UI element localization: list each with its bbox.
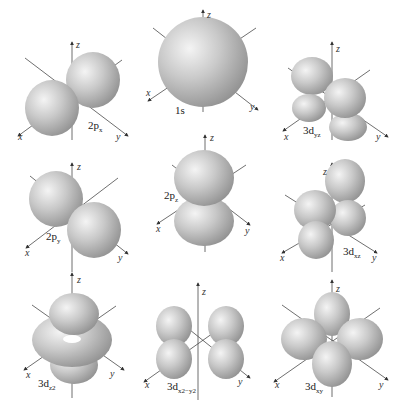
x-label: x bbox=[274, 379, 280, 390]
panel-2px: z x y 2px bbox=[17, 39, 128, 142]
orbital-diagram: z x y 2px z x y 1s z x y 3dyz z x bbox=[0, 0, 403, 407]
panel-3dyz: z x y 3dyz bbox=[283, 42, 388, 142]
y-label: y bbox=[115, 131, 121, 142]
orbital-label: 3dyz bbox=[303, 124, 321, 139]
lobe bbox=[292, 94, 326, 122]
z-label: z bbox=[206, 9, 211, 20]
lobe bbox=[158, 17, 248, 107]
z-label: z bbox=[201, 286, 206, 297]
orbital-label: 2py bbox=[46, 230, 61, 245]
lobe bbox=[156, 339, 192, 379]
lobe bbox=[174, 150, 234, 206]
z-label: z bbox=[322, 166, 327, 177]
x-label: x bbox=[283, 131, 289, 142]
y-label: y bbox=[249, 101, 255, 112]
z-label: z bbox=[335, 43, 340, 54]
lobe bbox=[324, 78, 366, 118]
z-label: z bbox=[335, 283, 340, 294]
lobe bbox=[298, 221, 334, 259]
panel-3dxy: z x y 3dxy bbox=[274, 280, 388, 397]
x-label: x bbox=[145, 87, 151, 98]
z-label: z bbox=[75, 39, 80, 50]
orbital-label: 3dx2−y2 bbox=[167, 380, 196, 395]
z-label: z bbox=[209, 132, 214, 143]
panel-2py: z x y 2py bbox=[24, 161, 128, 272]
y-label: y bbox=[371, 252, 377, 263]
orbital-label: 1s bbox=[175, 104, 185, 116]
lobe bbox=[49, 293, 99, 335]
lobe bbox=[325, 159, 365, 203]
x-label: x bbox=[279, 252, 285, 263]
lobe bbox=[312, 341, 352, 387]
lobe bbox=[208, 339, 244, 379]
lobe bbox=[25, 80, 79, 136]
torus-hole bbox=[63, 335, 81, 343]
y-label: y bbox=[117, 252, 123, 263]
y-label: y bbox=[237, 376, 243, 387]
z-label: z bbox=[76, 274, 81, 285]
x-label: x bbox=[25, 369, 31, 380]
orbital-label: 3dz2 bbox=[38, 377, 56, 392]
z-label: z bbox=[76, 161, 81, 172]
lobe bbox=[67, 202, 121, 258]
panel-3dxz: z x y 3dxz bbox=[279, 159, 377, 272]
panel-3dz2: z x y 3dz2 bbox=[24, 273, 124, 398]
orbital-label: 3dxz bbox=[343, 245, 361, 260]
panel-3dx2-y2: z x y 3dx2−y2 bbox=[144, 283, 250, 400]
y-label: y bbox=[378, 379, 384, 390]
y-label: y bbox=[244, 225, 250, 236]
x-label: x bbox=[155, 223, 161, 234]
y-label: y bbox=[109, 368, 115, 379]
orbital-label: 2px bbox=[88, 119, 103, 134]
y-label: y bbox=[375, 131, 381, 142]
orbital-label: 2pz bbox=[164, 189, 178, 204]
x-label: x bbox=[24, 247, 30, 258]
x-label: x bbox=[144, 379, 150, 390]
x-label: x bbox=[17, 131, 23, 142]
panel-1s: z x y 1s bbox=[145, 9, 258, 116]
panel-2pz: z x y 2pz bbox=[155, 132, 250, 252]
